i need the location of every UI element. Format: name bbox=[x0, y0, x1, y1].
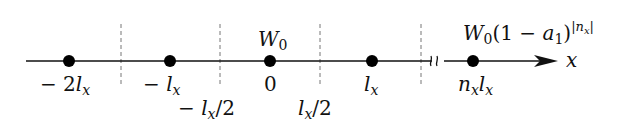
site-dot bbox=[63, 55, 75, 67]
site-label-zero: 0 bbox=[264, 72, 277, 96]
weight-label-far: W0(1 − a1)|nx| bbox=[463, 19, 594, 47]
site-label-minus-2lx: − 2lx bbox=[40, 72, 90, 98]
site-dot bbox=[164, 55, 176, 67]
site-dot bbox=[264, 55, 276, 67]
lattice-diagram: x − 2lx − lx 0 lx nxlx − lx/2 lx/2 W0 W0… bbox=[0, 0, 631, 128]
site-dot bbox=[467, 55, 479, 67]
axis-label-x: x bbox=[566, 48, 577, 72]
axis-break-icon bbox=[430, 56, 437, 66]
site-dot bbox=[366, 55, 378, 67]
boundary-label-half-lx: lx/2 bbox=[298, 96, 332, 122]
site-label-minus-lx: − lx bbox=[143, 72, 181, 98]
site-label-nx-lx: nxlx bbox=[458, 72, 493, 98]
boundary-label-minus-half-lx: − lx/2 bbox=[178, 96, 235, 122]
weight-label-center: W0 bbox=[258, 27, 287, 53]
site-label-lx: lx bbox=[364, 72, 378, 98]
